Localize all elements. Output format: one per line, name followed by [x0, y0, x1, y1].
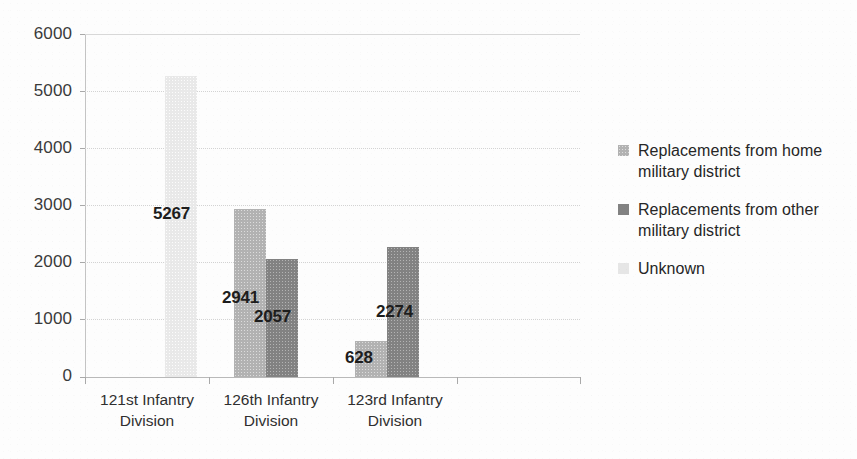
legend-item-unknown[interactable]: Unknown — [618, 258, 854, 279]
chart-figure: 6000 5000 4000 3000 2000 1000 0 — [0, 0, 857, 459]
gridline-5000 — [85, 91, 580, 92]
legend-label-line-1: Replacements from home — [638, 142, 822, 159]
x-axis-category-label-123rd: 123rd Infantry Division — [333, 389, 457, 431]
y-axis-tick-label: 3000 — [10, 195, 72, 215]
data-label-628: 628 — [345, 348, 373, 368]
gridline-1000 — [85, 319, 580, 320]
x-axis-tick — [333, 377, 334, 384]
legend-item-other[interactable]: Replacements from other military distric… — [618, 199, 854, 241]
category-label-line-1: 123rd Infantry — [333, 389, 457, 410]
legend-item-home[interactable]: Replacements from home military district — [618, 140, 854, 182]
x-axis-tick — [457, 377, 458, 384]
data-label-2057: 2057 — [254, 307, 291, 327]
data-label-2274: 2274 — [376, 302, 413, 322]
category-label-line-1: 126th Infantry — [209, 389, 333, 410]
category-label-line-2: Division — [209, 410, 333, 431]
x-axis-category-label-126th: 126th Infantry Division — [209, 389, 333, 431]
legend-swatch-icon-home — [618, 145, 629, 156]
category-label-line-2: Division — [85, 410, 209, 431]
y-axis-tick-label: 1000 — [10, 309, 72, 329]
legend-label-line-2: military district — [638, 222, 740, 239]
x-axis-category-label-121st: 121st Infantry Division — [85, 389, 209, 431]
gridline-4000 — [85, 148, 580, 149]
legend-label-other: Replacements from other military distric… — [638, 199, 819, 241]
legend-label-home: Replacements from home military district — [638, 140, 822, 182]
y-axis-tick-label: 4000 — [10, 138, 72, 158]
legend-label-unknown: Unknown — [638, 258, 705, 279]
chart-legend: Replacements from home military district… — [618, 140, 854, 296]
gridline-2000 — [85, 262, 580, 263]
data-label-2941: 2941 — [222, 288, 259, 308]
y-axis-tick-label: 2000 — [10, 252, 72, 272]
category-label-line-1: 121st Infantry — [85, 389, 209, 410]
gridline-6000 — [85, 34, 580, 35]
y-axis-tick-label: 6000 — [10, 24, 72, 44]
legend-swatch-icon-unknown — [618, 263, 629, 274]
data-label-5267: 5267 — [153, 204, 190, 224]
x-axis-tick — [85, 377, 86, 384]
legend-label-line-1: Replacements from other — [638, 201, 819, 218]
y-axis-labels: 6000 5000 4000 3000 2000 1000 0 — [6, 0, 72, 459]
x-axis-tick — [580, 377, 581, 384]
y-axis-tick-label: 5000 — [10, 81, 72, 101]
bar-121st-unknown[interactable] — [165, 76, 197, 377]
category-label-line-2: Division — [333, 410, 457, 431]
x-axis-tick — [209, 377, 210, 384]
legend-label-line-2: military district — [638, 163, 740, 180]
y-axis-tick-label: 0 — [10, 366, 72, 386]
legend-label-line-1: Unknown — [638, 260, 705, 277]
legend-swatch-icon-other — [618, 204, 629, 215]
